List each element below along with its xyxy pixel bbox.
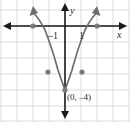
x-axis-label: x xyxy=(117,30,121,40)
y-axis-bottom-arrowhead xyxy=(61,111,69,119)
tick-label-negative-one: –1 xyxy=(48,31,58,41)
point-marker xyxy=(94,23,99,28)
y-axis-label: y xyxy=(70,6,74,16)
x-axis-left-arrowhead xyxy=(3,22,11,30)
point-marker xyxy=(30,23,35,28)
point-marker xyxy=(45,69,50,74)
parabola-graph-figure: y x –1 1 (0, –4) xyxy=(0,0,130,122)
tick-label-positive-one: 1 xyxy=(79,31,84,41)
point-marker xyxy=(79,69,84,74)
graph-canvas xyxy=(0,0,130,122)
y-axis-top-arrowhead xyxy=(61,3,69,11)
curve-right-arrowhead xyxy=(92,6,101,16)
vertex-coordinate-label: (0, –4) xyxy=(67,93,91,102)
curve-left-arrowhead xyxy=(30,6,39,16)
